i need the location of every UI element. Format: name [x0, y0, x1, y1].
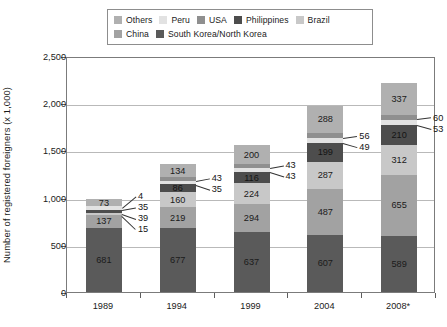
- bar-2004[interactable]: 288199287487607: [307, 106, 343, 292]
- bar-1999[interactable]: 200116224294637: [234, 145, 270, 292]
- bar-segment-callout-value: 43: [212, 173, 222, 183]
- bar-segment[interactable]: 487: [307, 189, 343, 235]
- bar-segment-callout-value: 35: [212, 184, 222, 194]
- bar-segment-callout-value: 56: [359, 131, 369, 141]
- legend-swatch-icon: [156, 30, 164, 38]
- bar-segment[interactable]: 73: [86, 199, 122, 206]
- bar-1994[interactable]: 13486160219677: [160, 164, 196, 292]
- bar-segment-callout-value: 4: [138, 191, 143, 201]
- callout-leader-line: [270, 165, 284, 168]
- bar-segment-callout-value: 43: [286, 171, 296, 181]
- legend-swatch-icon: [296, 16, 304, 24]
- bar-segment[interactable]: 637: [234, 232, 270, 292]
- bar-segment-callout-value: 60: [433, 113, 443, 123]
- bar-segment-callout-value: 49: [359, 142, 369, 152]
- callout-leader-line: [343, 143, 357, 148]
- legend-label: Philippines: [246, 15, 289, 25]
- bar-segment-callout-value: 53: [433, 124, 443, 134]
- bar-segment-value: 294: [234, 213, 270, 223]
- legend-label: Others: [126, 15, 152, 25]
- bar-segment[interactable]: 337: [381, 83, 417, 115]
- bar-1989[interactable]: 73137681: [86, 199, 122, 292]
- bar-segment[interactable]: 288: [307, 106, 343, 133]
- legend-swatch-icon: [197, 16, 205, 24]
- y-tick-label: 2,000: [22, 99, 66, 109]
- bar-segment-value: 210: [381, 130, 417, 140]
- bar-2008[interactable]: 337210312655589: [381, 83, 417, 292]
- legend-swatch-icon: [234, 16, 242, 24]
- legend-row: ChinaSouth Korea/North Korea: [114, 27, 367, 41]
- bar-segment-value: 116: [234, 173, 270, 183]
- callout-leader-line: [417, 118, 431, 121]
- bar-segment-value: 288: [307, 114, 343, 124]
- legend-item-usa[interactable]: USA: [197, 15, 227, 25]
- bar-segment[interactable]: 681: [86, 228, 122, 292]
- legend-label: South Korea/North Korea: [168, 29, 267, 39]
- legend-swatch-icon: [114, 30, 122, 38]
- bar-segment-callout-value: 43: [286, 160, 296, 170]
- bar-segment-value: 637: [234, 257, 270, 267]
- bar-segment[interactable]: 224: [234, 183, 270, 204]
- bar-segment[interactable]: 677: [160, 228, 196, 292]
- legend-row: OthersPeruUSAPhilippinesBrazil: [114, 13, 367, 27]
- bar-segment-value: 287: [307, 170, 343, 180]
- x-tick-mark: [435, 293, 436, 298]
- legend-item-brazil[interactable]: Brazil: [296, 15, 330, 25]
- bar-segment[interactable]: 294: [234, 204, 270, 232]
- bar-segment-value: 589: [381, 259, 417, 269]
- legend-item-peru[interactable]: Peru: [159, 15, 190, 25]
- bar-segment[interactable]: 200: [234, 145, 270, 164]
- bar-segment[interactable]: 287: [307, 162, 343, 189]
- x-tick-label: 2004: [294, 301, 354, 312]
- legend-swatch-icon: [159, 16, 167, 24]
- legend-label: China: [126, 29, 149, 39]
- bar-segment-value: 487: [307, 207, 343, 217]
- bar-segment[interactable]: 116: [234, 172, 270, 183]
- legend-item-china[interactable]: China: [114, 29, 149, 39]
- callout-leader-line: [196, 178, 210, 182]
- y-tick-label: 1,000: [22, 194, 66, 204]
- bar-segment-callout-value: 35: [138, 202, 148, 212]
- bar-segment[interactable]: 160: [160, 192, 196, 207]
- bar-segment[interactable]: 199: [307, 143, 343, 162]
- gridline: [67, 105, 434, 106]
- y-tick-label: 2,500: [22, 52, 66, 62]
- callout-leader-line: [417, 125, 431, 130]
- x-tick-label: 1989: [73, 301, 133, 312]
- x-tick-label: 1999: [221, 301, 281, 312]
- x-tick-mark: [361, 293, 362, 298]
- bar-segment-value: 337: [381, 94, 417, 104]
- x-tick-mark: [66, 293, 67, 298]
- bar-segment-value: 137: [86, 216, 122, 226]
- chart-legend: OthersPeruUSAPhilippinesBrazilChinaSouth…: [107, 9, 373, 45]
- x-tick-mark: [287, 293, 288, 298]
- bar-segment-value: 160: [160, 195, 196, 205]
- callout-leader-line: [195, 185, 209, 191]
- x-axis-ticks: 19891994199920042008*: [66, 293, 435, 323]
- bar-segment[interactable]: 86: [160, 184, 196, 192]
- bar-segment[interactable]: 655: [381, 175, 417, 237]
- callout-leader-line: [269, 172, 283, 177]
- x-tick-mark: [140, 293, 141, 298]
- legend-item-others[interactable]: Others: [114, 15, 152, 25]
- bar-segment[interactable]: 312: [381, 145, 417, 174]
- legend-swatch-icon: [114, 16, 122, 24]
- bar-segment-value: 199: [307, 147, 343, 157]
- bar-segment-value: 134: [160, 166, 196, 176]
- callout-leader-line: [343, 136, 357, 139]
- bar-segment-callout-value: 39: [138, 213, 148, 223]
- legend-item-south-korea-north-korea[interactable]: South Korea/North Korea: [156, 29, 267, 39]
- bar-segment[interactable]: 219: [160, 207, 196, 228]
- bar-segment[interactable]: 210: [381, 125, 417, 145]
- bar-segment[interactable]: 607: [307, 235, 343, 292]
- legend-item-philippines[interactable]: Philippines: [234, 15, 289, 25]
- bar-segment-value: 224: [234, 189, 270, 199]
- plot-area: 7313768143539151348616021967743352001162…: [66, 57, 435, 293]
- bar-segment[interactable]: 134: [160, 164, 196, 177]
- bar-segment[interactable]: 137: [86, 215, 122, 228]
- bar-segment-value: 677: [160, 255, 196, 265]
- legend-label: USA: [209, 15, 227, 25]
- callout-leader-line: [122, 207, 136, 211]
- x-tick-label: 2008*: [368, 301, 428, 312]
- bar-segment[interactable]: 589: [381, 236, 417, 292]
